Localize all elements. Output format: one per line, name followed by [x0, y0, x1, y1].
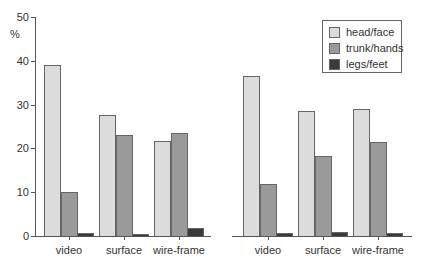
- bar-trunk-hands-wire-frame: [171, 133, 188, 236]
- x-tick: [69, 236, 70, 240]
- legend-label: trunk/hands: [346, 42, 403, 54]
- legend-item-legs-feet: legs/feet: [329, 57, 388, 71]
- y-tick: [31, 148, 35, 149]
- y-tick: [31, 17, 35, 18]
- legend: head/face trunk/hands legs/feet: [322, 20, 402, 73]
- bar-head-face-wire-frame: [154, 141, 171, 236]
- bar-head-face-video: [243, 76, 260, 236]
- legend-swatch-legs-feet: [329, 59, 340, 70]
- y-tick-label: 50: [2, 11, 29, 23]
- y-tick: [31, 61, 35, 62]
- x-axis-line-left: [35, 236, 211, 237]
- y-tick-label: 30: [2, 99, 29, 111]
- x-axis-line-right: [232, 236, 412, 237]
- x-tick: [124, 236, 125, 240]
- category-label: wire-frame: [348, 244, 408, 256]
- bar-legs-feet-video: [77, 233, 94, 236]
- x-tick: [268, 236, 269, 240]
- bar-trunk-hands-surface: [116, 135, 133, 236]
- bar-head-face-surface: [298, 111, 315, 236]
- x-tick: [378, 236, 379, 240]
- bar-head-face-wire-frame: [353, 109, 370, 236]
- x-tick: [323, 236, 324, 240]
- legend-label: head/face: [346, 26, 394, 38]
- bar-legs-feet-video: [276, 233, 293, 236]
- bar-legs-feet-surface: [331, 232, 348, 236]
- legend-item-trunk-hands: trunk/hands: [329, 41, 403, 55]
- bar-head-face-video: [44, 65, 61, 236]
- y-tick-label: 20: [2, 142, 29, 154]
- y-tick-label: 0: [2, 230, 29, 242]
- category-label: wire-frame: [149, 244, 209, 256]
- x-tick: [179, 236, 180, 240]
- y-tick: [31, 105, 35, 106]
- y-tick: [31, 192, 35, 193]
- y-tick: [31, 236, 35, 237]
- bar-legs-feet-wire-frame: [386, 233, 403, 236]
- legend-label: legs/feet: [346, 58, 388, 70]
- bar-legs-feet-surface: [132, 234, 149, 236]
- legend-swatch-head-face: [329, 27, 340, 38]
- bar-trunk-hands-surface: [315, 156, 332, 236]
- bar-trunk-hands-video: [260, 184, 277, 236]
- y-tick-label: 10: [2, 186, 29, 198]
- category-label: surface: [293, 244, 353, 256]
- y-axis-line: [35, 17, 36, 237]
- y-tick-label: 40: [2, 55, 29, 67]
- category-label: surface: [94, 244, 154, 256]
- category-label: video: [238, 244, 298, 256]
- bar-trunk-hands-video: [61, 192, 78, 236]
- bar-head-face-surface: [99, 115, 116, 236]
- legend-swatch-trunk-hands: [329, 43, 340, 54]
- bar-trunk-hands-wire-frame: [370, 142, 387, 236]
- y-axis-label: %: [10, 28, 20, 40]
- legend-item-head-face: head/face: [329, 25, 394, 39]
- bar-legs-feet-wire-frame: [187, 228, 204, 236]
- category-label: video: [39, 244, 99, 256]
